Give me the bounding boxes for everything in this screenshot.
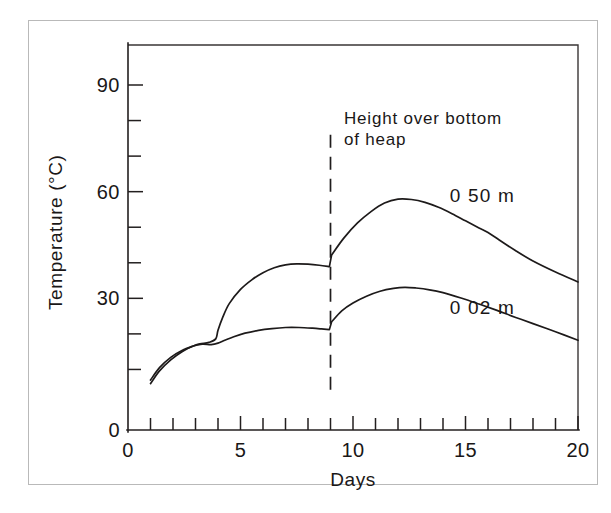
y-axis-title: Temperature (°C) [45,154,66,310]
height-note-line-1: Height over bottom [344,109,502,128]
y-axis-ticks [128,85,143,369]
figure-root: 0306090 05101520 Temperature (°C) Days 0… [0,0,611,513]
series-label-0-50-m: 0 50 m [450,185,515,206]
plot-frame [128,45,578,430]
y-tick-label-90: 90 [97,74,120,96]
y-tick-label-0: 0 [108,419,120,441]
y-tick-label-60: 60 [97,181,120,203]
temperature-line-chart: 0306090 05101520 Temperature (°C) Days 0… [0,0,611,513]
x-axis-ticks [151,416,579,430]
series-label-0-02-m: 0 02 m [450,297,515,318]
y-tick-label-30: 30 [97,287,120,309]
x-axis-tick-labels: 05101520 [122,439,589,461]
x-tick-label-5: 5 [235,439,247,461]
y-axis-tick-labels: 0306090 [97,74,120,441]
height-note-line-2: of heap [344,130,406,149]
series-line-0-50-m [151,199,579,380]
plot-box-top-right [128,45,578,430]
x-axis-title: Days [330,469,376,490]
x-tick-label-10: 10 [341,439,364,461]
x-tick-label-0: 0 [122,439,134,461]
x-tick-label-20: 20 [566,439,589,461]
x-tick-label-15: 15 [454,439,477,461]
